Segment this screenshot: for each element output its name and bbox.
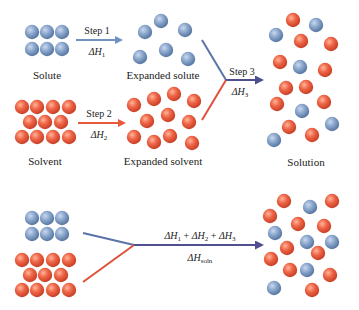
solute-particles [25, 25, 69, 56]
solvent-particle [264, 252, 278, 266]
solvent-particles [15, 100, 76, 144]
solute-particle [300, 263, 314, 277]
solution-label: Solution [287, 156, 325, 168]
solute-particle [269, 28, 283, 42]
solvent-particle [163, 129, 177, 143]
solute-particle [55, 42, 69, 56]
solvent-particle [324, 37, 338, 51]
solvent-particle [187, 94, 201, 108]
solvent-particle [317, 95, 331, 109]
solute-particle [55, 25, 69, 39]
solute-particle [40, 25, 54, 39]
solute-particle [295, 104, 309, 118]
solvent-particle [185, 136, 199, 150]
solvent-particle [299, 80, 313, 94]
overall-solute-line [83, 233, 134, 245]
solvent-particle [283, 263, 297, 277]
step1-delta-h: ΔH1 [88, 46, 106, 59]
solvent-particle [286, 13, 300, 27]
solute-particle [55, 227, 69, 241]
solute-particle [138, 25, 152, 39]
solvent-particle [30, 130, 44, 144]
solute-particle [40, 211, 54, 225]
solvent-particle [30, 283, 44, 297]
overall-delta-h-soln: ΔHsoln [187, 252, 213, 265]
overall-solvent-line [83, 245, 134, 282]
solvent-particle [311, 246, 325, 260]
solvent-particle [46, 130, 60, 144]
solvent-particle [273, 55, 287, 69]
solvent-particle [54, 268, 68, 282]
solvent-particle [140, 114, 154, 128]
solvent-particle [15, 283, 29, 297]
solvent-particle [282, 120, 296, 134]
solute-particle [25, 42, 39, 56]
solvent-particle [161, 108, 175, 122]
solvent-particle [325, 194, 339, 208]
solvent-particle [46, 283, 60, 297]
solvent-particle [147, 92, 161, 106]
solute-particle [154, 14, 168, 28]
solute-particle [300, 235, 314, 249]
solvent-particle [30, 100, 44, 114]
solute-particle [325, 235, 339, 249]
solvent-particle [323, 268, 337, 282]
solvent-particle [167, 87, 181, 101]
solvent-label: Solvent [28, 155, 62, 167]
solvent-particle [62, 130, 76, 144]
solute-particle [25, 211, 39, 225]
solvent-particle [294, 34, 308, 48]
solvent-particle [46, 253, 60, 267]
solvent-particle [318, 63, 332, 77]
solvent-particle [38, 115, 52, 129]
solute-particle [40, 227, 54, 241]
solute-particle [40, 42, 54, 56]
solvent-particle [62, 283, 76, 297]
solvent-particle [62, 253, 76, 267]
solvent-particle [305, 283, 319, 297]
solute-particle [159, 43, 173, 57]
solvent-particle [62, 100, 76, 114]
solvent-particle [270, 97, 284, 111]
step3-delta-h: ΔH3 [231, 86, 249, 99]
solvent-particle [23, 115, 37, 129]
solute-particle [293, 60, 307, 74]
solute-particle [303, 200, 317, 214]
solvent-particle [291, 217, 305, 231]
step2-label: Step 2 [86, 108, 111, 119]
solvent-particle [280, 241, 294, 255]
step2-delta-h: ΔH2 [90, 129, 108, 142]
expanded-solvent-particles [127, 87, 201, 150]
solvent-particle [38, 268, 52, 282]
bottom-solvent-particles [15, 253, 76, 297]
solvent-particle [127, 98, 141, 112]
solvent-particle [277, 194, 291, 208]
solvent-particle [279, 81, 293, 95]
solvent-particle [23, 268, 37, 282]
solute-particle [25, 227, 39, 241]
solvent-particle [46, 100, 60, 114]
overall-sum-delta-h: ΔH1 + ΔH2 + ΔH3 [163, 230, 236, 243]
solvent-particle [15, 130, 29, 144]
solvent-particle [263, 209, 277, 223]
solvent-particle [127, 130, 141, 144]
expanded-solvent-label: Expanded solvent [124, 155, 203, 167]
step3-label: Step 3 [229, 66, 254, 77]
solvent-particle [54, 115, 68, 129]
solute-particle [133, 50, 147, 64]
solute-particle [178, 23, 192, 37]
expanded-solute-label: Expanded solute [126, 69, 199, 81]
step1-label: Step 1 [84, 25, 109, 36]
expanded-solute-particles [133, 14, 195, 66]
solute-particle [325, 117, 339, 131]
enthalpy-of-solution-diagram: Step 1 ΔH1 Step 2 ΔH2 Step 3 ΔH3 Solute … [0, 0, 359, 310]
solute-particle [309, 18, 323, 32]
solute-particle [267, 281, 281, 295]
solute-particle [55, 211, 69, 225]
solvent-particle [30, 253, 44, 267]
solute-particle [267, 133, 281, 147]
solvent-particle [15, 100, 29, 114]
solvent-particle [305, 128, 319, 142]
solute-particle [181, 52, 195, 66]
step3-solute-line [202, 40, 226, 80]
